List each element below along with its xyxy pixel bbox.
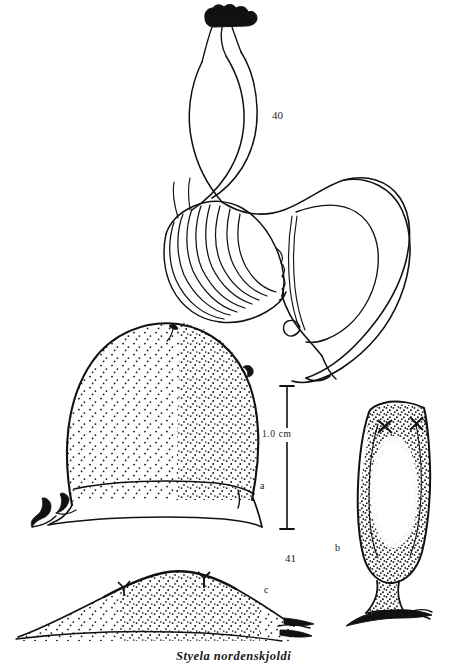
siphon-crown [205, 4, 257, 27]
panel-b-specimen [346, 400, 445, 626]
body-wall-inner-left [192, 56, 244, 210]
esophagus-line-b [294, 216, 305, 330]
figure-number-41: 41 [285, 553, 296, 564]
panel-letter-b: b [335, 543, 340, 553]
stomach-loop [296, 205, 378, 342]
siphon-neck-middle [221, 27, 226, 56]
duct-filament-right [189, 178, 191, 210]
siphon-neck-left-outer [202, 27, 212, 62]
scale-bar [278, 386, 298, 529]
scale-bar-label: 1.0 cm [262, 430, 291, 440]
plate-artwork [0, 0, 457, 666]
duct-filament-left [173, 182, 178, 218]
panel-b-holdfast [346, 610, 432, 626]
figure-number-40: 40 [272, 110, 283, 121]
siphon-neck-right-outer [232, 27, 241, 52]
figure-40-anatomy [164, 4, 410, 382]
gonad-lamellae [164, 201, 286, 322]
body-wall-left [189, 62, 222, 202]
species-caption: Styela nordenskjoldi [176, 650, 291, 663]
panel-letter-c: c [264, 585, 268, 595]
ventral-wall [282, 296, 322, 356]
panel-a-right-edge [253, 498, 262, 527]
panel-c-specimen [15, 565, 314, 645]
panel-a-specimen [31, 315, 270, 527]
panel-letter-a: a [260, 481, 264, 491]
panel-a-base-lower [48, 517, 262, 527]
pyloric-hook [284, 320, 300, 336]
illustration-plate: 40 41 1.0 cm a b c Styela nordenskjoldi [0, 0, 457, 666]
